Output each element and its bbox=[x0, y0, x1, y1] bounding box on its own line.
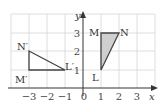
x-axis-label: x bbox=[149, 91, 155, 102]
vertex-label-N: N bbox=[120, 27, 129, 38]
axes bbox=[8, 15, 154, 96]
vertex-label-N-prime: N′ bbox=[17, 41, 29, 52]
vertex-label-L-prime: L′ bbox=[65, 61, 75, 72]
x-tick: 3 bbox=[134, 91, 140, 102]
x-tick-labels: −3 −2 −1 0 1 2 3 bbox=[22, 91, 141, 102]
y-tick-labels: 1 2 3 bbox=[74, 28, 80, 76]
y-tick: 1 bbox=[74, 65, 80, 76]
y-axis-arrow-icon bbox=[80, 11, 86, 18]
y-tick: 3 bbox=[74, 28, 80, 39]
x-tick: −3 bbox=[22, 91, 37, 102]
triangle-LMN bbox=[101, 33, 119, 70]
vertex-label-M: M bbox=[89, 27, 99, 38]
x-tick: 1 bbox=[98, 91, 104, 102]
x-tick: −1 bbox=[58, 91, 73, 102]
x-tick: −2 bbox=[40, 91, 55, 102]
vertex-label-L: L bbox=[92, 72, 99, 83]
y-tick: 2 bbox=[74, 46, 80, 57]
x-tick: 2 bbox=[116, 91, 122, 102]
x-tick: 0 bbox=[81, 91, 87, 102]
coordinate-plane-diagram: x y −3 −2 −1 0 1 2 3 1 2 3 M N L N′ M′ L… bbox=[0, 0, 163, 105]
y-axis-label: y bbox=[74, 10, 81, 21]
vertex-label-M-prime: M′ bbox=[15, 74, 28, 85]
